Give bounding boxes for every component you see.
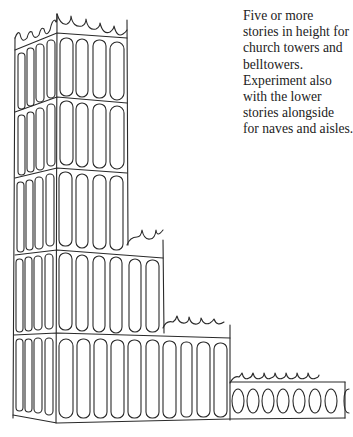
windows-tier-2 xyxy=(18,101,124,175)
caption-line: church towers and xyxy=(243,40,353,56)
windows-tier-4 xyxy=(16,253,159,333)
caption-line: for naves and aisles. xyxy=(243,121,353,137)
aisle-windows xyxy=(232,389,349,413)
caption-line: with the lower xyxy=(243,89,353,105)
caption-text: Five or more stories in height for churc… xyxy=(243,8,353,138)
caption-line: stories in height for xyxy=(243,24,353,40)
windows-tier-5 xyxy=(16,338,227,418)
caption-line: Five or more xyxy=(243,8,353,24)
caption-line: belltowers. xyxy=(243,57,353,73)
windows-tier-3 xyxy=(17,172,123,252)
step-crenellations xyxy=(127,230,319,383)
caption-line: stories alongside xyxy=(243,105,353,121)
caption-line: Experiment also xyxy=(243,73,353,89)
